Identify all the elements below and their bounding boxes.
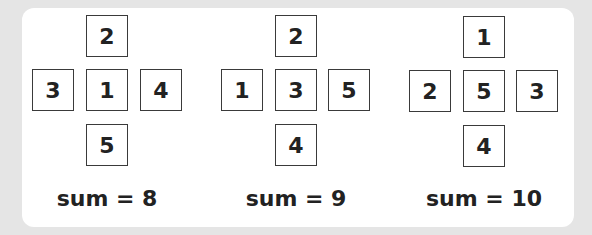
cross-top-box: 2 bbox=[86, 15, 128, 57]
cross-right-box: 5 bbox=[328, 69, 370, 111]
cross-center-box: 3 bbox=[275, 69, 317, 111]
cross-bottom-box: 4 bbox=[463, 125, 505, 167]
cross-center-box: 5 bbox=[463, 70, 505, 112]
cross-left-box: 1 bbox=[221, 69, 263, 111]
cross-left-box: 2 bbox=[409, 70, 451, 112]
cross-center-box: 1 bbox=[86, 69, 128, 111]
cross-left-box: 3 bbox=[32, 69, 74, 111]
cross-top-box: 1 bbox=[463, 16, 505, 58]
sum-label: sum = 8 bbox=[27, 186, 187, 211]
cross-right-box: 4 bbox=[140, 69, 182, 111]
cross-bottom-box: 4 bbox=[275, 124, 317, 166]
cross-bottom-box: 5 bbox=[86, 124, 128, 166]
cross-right-box: 3 bbox=[516, 70, 558, 112]
sum-label: sum = 10 bbox=[404, 186, 564, 211]
sum-label: sum = 9 bbox=[216, 186, 376, 211]
cross-top-box: 2 bbox=[275, 15, 317, 57]
